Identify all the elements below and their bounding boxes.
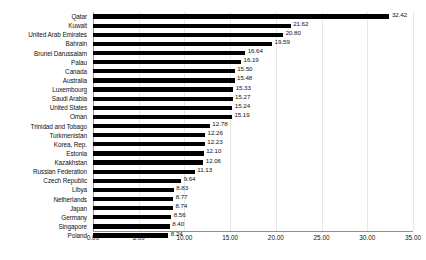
bar-value-label: 15.33 — [236, 84, 251, 91]
category-label: Palau — [0, 58, 90, 67]
category-label: United States — [0, 103, 90, 112]
category-label: Poland — [0, 231, 90, 240]
category-label: Turkmenistan — [0, 131, 90, 140]
category-label: Qatar — [0, 12, 90, 21]
bar[interactable] — [93, 188, 174, 192]
bar[interactable] — [93, 197, 173, 201]
category-label: Korea, Rep. — [0, 140, 90, 149]
bar[interactable] — [93, 224, 170, 228]
bar[interactable] — [93, 14, 389, 18]
bar[interactable] — [93, 133, 205, 137]
bar-row[interactable]: 12.10 — [93, 149, 413, 158]
category-label: Luxembourg — [0, 85, 90, 94]
bar-row[interactable]: 21.62 — [93, 21, 413, 30]
bar[interactable] — [93, 33, 283, 37]
bar-row[interactable]: 8.83 — [93, 185, 413, 194]
category-label: United Arab Emirates — [0, 30, 90, 39]
bar-value-label: 8.74 — [175, 202, 187, 209]
bar[interactable] — [93, 170, 195, 174]
bar-value-label: 32.42 — [392, 11, 407, 18]
bar[interactable] — [93, 151, 204, 155]
category-label: Singapore — [0, 222, 90, 231]
bar-row[interactable]: 15.48 — [93, 76, 413, 85]
bar-value-label: 19.59 — [275, 38, 290, 45]
bar-row[interactable]: 8.40 — [93, 222, 413, 231]
bar[interactable] — [93, 42, 272, 46]
bar-row[interactable]: 8.74 — [93, 204, 413, 213]
bar-row[interactable]: 16.19 — [93, 58, 413, 67]
bar[interactable] — [93, 24, 291, 28]
bar-row[interactable]: 11.13 — [93, 167, 413, 176]
bar-value-label: 11.13 — [197, 166, 212, 173]
bar-row[interactable]: 20.80 — [93, 30, 413, 39]
category-label: Russian Federation — [0, 167, 90, 176]
category-label: Netherlands — [0, 195, 90, 204]
bar-value-label: 8.83 — [176, 184, 188, 191]
category-label: Germany — [0, 213, 90, 222]
bar-value-label: 16.19 — [244, 56, 259, 63]
category-label: Saudi Arabia — [0, 94, 90, 103]
category-label: Japan — [0, 204, 90, 213]
bar-value-label: 15.50 — [237, 65, 252, 72]
bar-row[interactable]: 12.26 — [93, 131, 413, 140]
category-label: Trinidad and Tobago — [0, 122, 90, 131]
category-label: Bahrain — [0, 39, 90, 48]
category-label: Kuwait — [0, 21, 90, 30]
bar[interactable] — [93, 97, 233, 101]
bar[interactable] — [93, 78, 235, 82]
bar-value-label: 8.40 — [172, 220, 184, 227]
bar[interactable] — [93, 179, 181, 183]
bar-value-label: 8.77 — [176, 193, 188, 200]
plot-area: 32.4221.6220.8019.5916.6416.1915.5015.48… — [93, 12, 413, 231]
category-label: Australia — [0, 76, 90, 85]
bar-row[interactable]: 32.42 — [93, 12, 413, 21]
category-label: Brunei Darussalam — [0, 49, 90, 58]
bar[interactable] — [93, 87, 233, 91]
bar-row[interactable]: 12.06 — [93, 158, 413, 167]
bar-row[interactable]: 15.50 — [93, 67, 413, 76]
bar-value-label: 16.64 — [248, 47, 263, 54]
bar[interactable] — [93, 124, 210, 128]
bar[interactable] — [93, 106, 232, 110]
bar-row[interactable]: 9.64 — [93, 176, 413, 185]
bar-value-label: 15.27 — [235, 93, 250, 100]
gridline-35.00 — [413, 12, 414, 231]
bar[interactable] — [93, 206, 173, 210]
bar[interactable] — [93, 51, 245, 55]
category-label: Oman — [0, 112, 90, 121]
x-tick-label: 10.00 — [176, 234, 192, 241]
category-label: Estonia — [0, 149, 90, 158]
bar-rows: 32.4221.6220.8019.5916.6416.1915.5015.48… — [93, 12, 413, 231]
bar-row[interactable]: 15.33 — [93, 85, 413, 94]
bar-row[interactable]: 15.19 — [93, 112, 413, 121]
bar-row[interactable]: 15.27 — [93, 94, 413, 103]
x-tick-label: 5.00 — [132, 234, 144, 241]
bar[interactable] — [93, 142, 205, 146]
bar-row[interactable]: 15.24 — [93, 103, 413, 112]
bar-value-label: 9.64 — [184, 175, 196, 182]
bar[interactable] — [93, 215, 171, 219]
bar[interactable] — [93, 160, 203, 164]
x-tick-label: 35.00 — [405, 234, 421, 241]
bar-value-label: 15.48 — [237, 74, 252, 81]
bar-value-label: 20.80 — [286, 29, 301, 36]
bar-value-label: 12.06 — [206, 157, 221, 164]
bar-row[interactable]: 12.78 — [93, 122, 413, 131]
x-tick-label: 20.00 — [268, 234, 284, 241]
bar-row[interactable]: 8.56 — [93, 213, 413, 222]
category-label: Kazakhstan — [0, 158, 90, 167]
x-tick-label: 0.00 — [87, 234, 99, 241]
category-label: Canada — [0, 67, 90, 76]
bar-row[interactable]: 8.77 — [93, 195, 413, 204]
bar-value-label: 12.26 — [208, 129, 223, 136]
bar[interactable] — [93, 69, 235, 73]
category-axis-labels: QatarKuwaitUnited Arab EmiratesBahrainBr… — [0, 12, 90, 231]
bar[interactable] — [93, 115, 232, 119]
bar-value-label: 21.62 — [293, 20, 308, 27]
bar-value-label: 12.10 — [206, 147, 221, 154]
x-tick-label: 15.00 — [222, 234, 238, 241]
bar[interactable] — [93, 60, 241, 64]
x-axis-ticks: 0.005.0010.0015.0020.0025.0030.0035.00 — [93, 231, 413, 245]
bar-value-label: 12.78 — [212, 120, 227, 127]
bar-row[interactable]: 12.23 — [93, 140, 413, 149]
